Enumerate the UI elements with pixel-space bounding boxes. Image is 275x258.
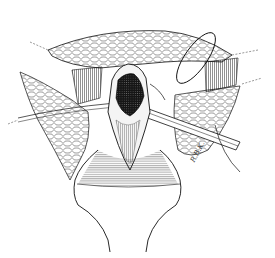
illustration-drawing	[0, 0, 275, 258]
central-opening	[108, 64, 150, 170]
surgical-illustration: R.B.K.	[0, 0, 275, 258]
lower-structure	[74, 150, 181, 252]
